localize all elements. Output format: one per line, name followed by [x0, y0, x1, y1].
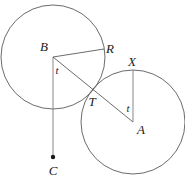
diagram-canvas	[0, 0, 185, 180]
segment-label-t-right: t	[126, 103, 129, 114]
point-label-t: T	[88, 95, 95, 108]
segment-b-a	[53, 57, 133, 122]
point-label-r: R	[106, 42, 114, 55]
point-label-x: X	[128, 55, 136, 68]
segment-b-r	[53, 49, 104, 57]
point-label-c: C	[49, 164, 58, 177]
segment-label-t-left: t	[55, 65, 58, 76]
geometry-figure: B R X T A C t t	[0, 0, 185, 180]
point-c-dot	[51, 155, 55, 159]
point-label-a: A	[137, 123, 145, 136]
point-label-b: B	[40, 40, 48, 53]
